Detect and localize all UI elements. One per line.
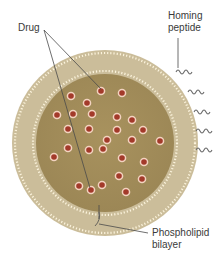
drug-core [51, 154, 57, 160]
drug-core [100, 146, 106, 152]
homing-peptide-icon [188, 90, 204, 94]
drug-core [116, 173, 122, 179]
drug-core [119, 90, 125, 96]
homing-peptide-icon [194, 110, 210, 114]
drug-core [86, 147, 92, 153]
bilayer-line-1: Phospholipid [152, 227, 209, 239]
drug-core [88, 187, 94, 193]
drug-core [140, 127, 146, 133]
homing-peptide-icon [196, 129, 212, 133]
drug-core [86, 126, 92, 132]
drug-core [114, 114, 120, 120]
bilayer-line-2: bilayer [152, 239, 209, 251]
drug-core [129, 117, 135, 123]
drug-core [89, 111, 95, 117]
homing-line-2: peptide [168, 22, 202, 34]
drug-core [70, 111, 76, 117]
homing-peptide-icon [196, 148, 212, 152]
drug-core [141, 159, 147, 165]
homing-peptide-label: Homing peptide [168, 10, 202, 34]
homing-line-1: Homing [168, 10, 202, 22]
phospholipid-bilayer-label: Phospholipid bilayer [152, 227, 209, 251]
drug-label: Drug [18, 22, 40, 34]
drug-core [54, 112, 60, 118]
drug-core [65, 145, 71, 151]
drug-core [99, 182, 105, 188]
drug-core [68, 93, 74, 99]
drug-core [119, 155, 125, 161]
drug-core [104, 137, 110, 143]
drug-core [157, 138, 163, 144]
drug-core [76, 183, 82, 189]
homing-peptide-icon [176, 70, 192, 74]
drug-core [123, 189, 129, 195]
drug-core [98, 88, 104, 94]
drug-core [65, 126, 71, 132]
drug-core [114, 127, 120, 133]
drug-core [84, 100, 90, 106]
drug-core [129, 137, 135, 143]
liposome-diagram [0, 0, 221, 262]
drug-core [139, 176, 145, 182]
